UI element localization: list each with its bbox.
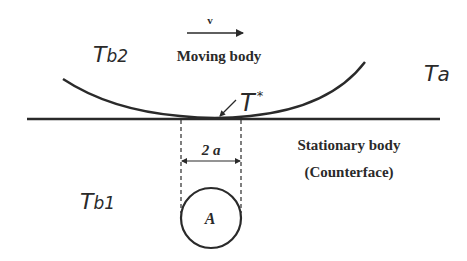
temp-moving-body-label: Tb2 xyxy=(93,42,128,67)
temp-ambient-sub: a xyxy=(437,62,449,86)
region-a-label: A xyxy=(204,210,216,227)
contact-diagram: v Moving body Tb2 Ta T* 2 a A Tb1 Statio… xyxy=(0,0,467,261)
flash-temp-label: T* xyxy=(240,88,264,117)
velocity-indicator: v xyxy=(187,14,243,33)
flash-temp-indicator: T* xyxy=(220,88,264,117)
flash-temp-pointer-icon xyxy=(220,100,236,116)
flash-temp-base: T xyxy=(240,89,257,117)
flash-temp-sup: * xyxy=(257,88,264,103)
moving-body-curve xyxy=(63,62,365,118)
temp-stationary-body-label: Tb1 xyxy=(80,189,115,214)
temp-ambient-label: Ta xyxy=(424,61,450,86)
counterface-label: (Counterface) xyxy=(304,164,393,181)
stationary-body-label: Stationary body xyxy=(298,137,401,153)
contact-width-label: 2 a xyxy=(201,142,221,158)
contact-width-dimension: 2 a xyxy=(182,142,240,161)
region-a: A xyxy=(181,188,241,248)
moving-body-label: Moving body xyxy=(177,48,262,64)
temp-moving-body-sub: b2 xyxy=(106,46,128,66)
velocity-label: v xyxy=(207,14,213,26)
temp-stationary-body-sub: b1 xyxy=(93,193,115,213)
